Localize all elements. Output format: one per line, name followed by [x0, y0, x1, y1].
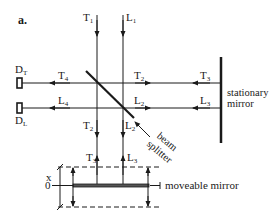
label-T3-horizontal: T3	[200, 70, 210, 85]
label-DL: DL	[15, 115, 27, 130]
label-T3-vertical: T3	[86, 152, 96, 167]
label-T4: T4	[58, 70, 68, 85]
label-T1: T1	[83, 12, 93, 27]
label-L3-vertical: L3	[127, 152, 137, 167]
label-DT: DT	[15, 64, 27, 79]
moveable-mirror	[73, 184, 149, 187]
label-T2-vertical: T2	[83, 120, 93, 135]
label-stationary-mirror: stationarymirror	[227, 87, 268, 109]
detector-T	[17, 78, 22, 88]
label-L4: L4	[58, 95, 68, 110]
label-L1: L1	[126, 12, 136, 27]
beam-splitter	[86, 71, 134, 118]
label-L2-horizontal: L2	[134, 95, 144, 110]
label-L3-horizontal: L3	[200, 95, 210, 110]
panel-label: a.	[18, 15, 27, 26]
label-axis-zero: 0	[45, 180, 51, 191]
label-moveable-mirror: moveable mirror	[165, 180, 239, 191]
label-T2-horizontal: T2	[134, 70, 144, 85]
detector-L	[17, 103, 22, 113]
label-L2-vertical: L2	[125, 120, 135, 135]
